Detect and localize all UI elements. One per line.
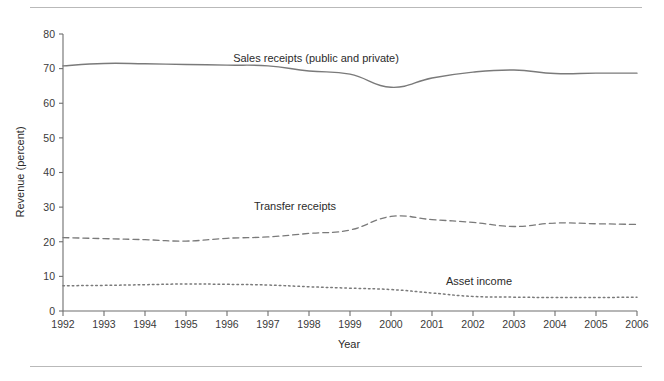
x-axis-tick-label: 2005 [584,318,608,330]
series-inline-label: Transfer receipts [254,200,337,212]
y-axis-tick-label: 40 [43,166,55,178]
y-axis-title: Revenue (percent) [14,126,26,217]
series-line [63,284,637,298]
line-chart: 01020304050607080 1992199319941995199619… [0,0,664,381]
x-axis-tick-label: 2006 [625,318,649,330]
y-axis-tick-label: 10 [43,270,55,282]
series-annotations: Sales receipts (public and private)Trans… [233,52,512,287]
x-axis-tick-label: 2000 [379,318,403,330]
y-axis-tick-label: 80 [43,28,55,40]
series-inline-label: Sales receipts (public and private) [233,52,399,64]
x-axis-tick-label: 1995 [174,318,198,330]
y-axis-tick-label: 0 [49,305,55,317]
y-axis-tick-label: 60 [43,97,55,109]
x-axis-tick-label: 1996 [215,318,239,330]
x-axis-tick-label: 1993 [92,318,116,330]
y-axis-tick-label: 20 [43,236,55,248]
x-axis-tick-label: 1999 [338,318,362,330]
x-axis-title: Year [338,338,361,350]
x-axis-tick-label: 2003 [502,318,526,330]
series-line [63,216,637,241]
series-line [63,63,637,87]
series-layer [63,63,637,297]
x-axis: 1992199319941995199619971998199920002001… [51,311,649,330]
x-axis-tick-label: 2001 [420,318,444,330]
series-inline-label: Asset income [446,275,512,287]
y-axis-tick-label: 50 [43,132,55,144]
x-axis-tick-label: 1994 [133,318,157,330]
x-axis-tick-label: 2002 [461,318,485,330]
y-axis: 01020304050607080 [43,28,63,317]
x-axis-tick-label: 1997 [256,318,280,330]
figure-container: 01020304050607080 1992199319941995199619… [0,0,664,381]
x-axis-tick-label: 1998 [297,318,321,330]
y-axis-tick-label: 70 [43,62,55,74]
x-axis-tick-label: 1992 [51,318,75,330]
y-axis-tick-label: 30 [43,201,55,213]
x-axis-tick-label: 2004 [543,318,567,330]
